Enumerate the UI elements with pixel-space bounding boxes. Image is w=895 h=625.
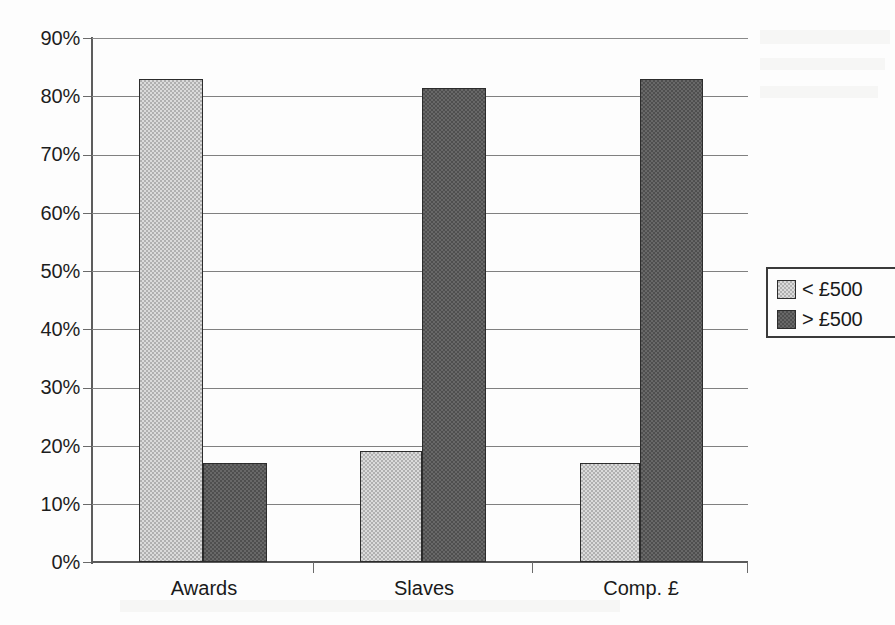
scan-artifact xyxy=(760,30,890,44)
bar-comp-under-500 xyxy=(580,463,640,562)
x-axis-label-slaves: Slaves xyxy=(394,577,454,600)
y-axis-label-10: 10% xyxy=(6,493,80,516)
plot-area xyxy=(92,38,748,562)
legend-item-under-500: < £500 xyxy=(777,274,895,304)
legend: < £500 > £500 xyxy=(766,267,895,338)
x-tick-2 xyxy=(532,562,533,573)
y-axis-label-0: 0% xyxy=(6,551,80,574)
bar-chart: 90% 80% 70% 60% 50% 40% 30% 20% 10% 0% xyxy=(0,0,895,625)
bar-slaves-under-500 xyxy=(360,451,422,562)
scan-artifact xyxy=(120,600,620,612)
scan-artifact xyxy=(760,86,878,98)
x-axis-label-comp: Comp. £ xyxy=(603,577,679,600)
bar-awards-over-500 xyxy=(203,463,267,562)
y-axis-label-80: 80% xyxy=(6,85,80,108)
y-axis-label-40: 40% xyxy=(6,318,80,341)
bar-comp-over-500 xyxy=(640,79,703,562)
legend-item-over-500: > £500 xyxy=(777,304,895,334)
x-tick-3 xyxy=(747,562,748,573)
gridline-90 xyxy=(92,38,748,39)
legend-label-over-500: > £500 xyxy=(802,308,863,331)
bar-slaves-over-500 xyxy=(422,88,486,562)
x-axis-label-awards: Awards xyxy=(171,577,237,600)
y-axis-label-70: 70% xyxy=(6,143,80,166)
y-axis-labels: 90% 80% 70% 60% 50% 40% 30% 20% 10% 0% xyxy=(0,0,80,625)
y-axis-label-50: 50% xyxy=(6,260,80,283)
legend-label-under-500: < £500 xyxy=(802,278,863,301)
y-axis-label-90: 90% xyxy=(6,27,80,50)
y-axis-label-30: 30% xyxy=(6,376,80,399)
legend-swatch-light-gray-icon xyxy=(777,280,796,299)
y-axis-label-20: 20% xyxy=(6,435,80,458)
x-tick-1 xyxy=(313,562,314,573)
scan-artifact xyxy=(760,58,885,70)
legend-swatch-dark-gray-icon xyxy=(777,310,796,329)
y-axis-label-60: 60% xyxy=(6,202,80,225)
bar-awards-under-500 xyxy=(139,79,203,562)
